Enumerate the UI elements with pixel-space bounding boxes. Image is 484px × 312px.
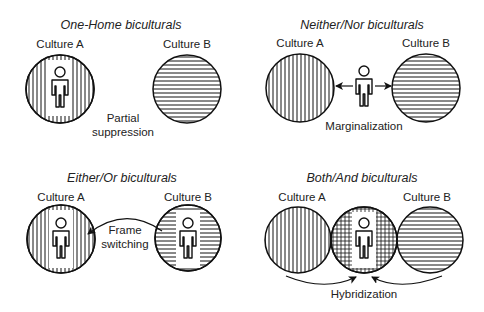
culture-b-circle bbox=[392, 54, 460, 122]
process-label-line2: switching bbox=[101, 238, 148, 250]
panel-one-home: One-Home biculturals Culture A Culture B… bbox=[26, 18, 221, 138]
process-label-line2: suppression bbox=[92, 126, 154, 138]
process-label-line1: Partial bbox=[107, 112, 140, 124]
culture-b-circle bbox=[153, 55, 221, 123]
culture-b-label: Culture B bbox=[164, 191, 212, 203]
culture-a-label: Culture A bbox=[278, 191, 326, 203]
culture-b-circle bbox=[397, 207, 463, 273]
hybrid-arrow-right bbox=[372, 276, 442, 284]
culture-a-label: Culture A bbox=[37, 191, 85, 203]
culture-a-label: Culture A bbox=[276, 37, 324, 49]
panel-title: Either/Or biculturals bbox=[67, 171, 177, 185]
process-label: Hybridization bbox=[331, 288, 397, 300]
person-icon bbox=[356, 66, 372, 106]
process-label-line1: Frame bbox=[108, 224, 141, 236]
panel-neither-nor: Neither/Nor biculturals Culture A Cultur… bbox=[266, 18, 460, 132]
panel-title: One-Home biculturals bbox=[61, 18, 182, 32]
culture-a-circle bbox=[265, 207, 331, 273]
panel-title: Both/And biculturals bbox=[306, 171, 417, 185]
culture-a-label: Culture A bbox=[36, 38, 84, 50]
culture-a-circle bbox=[266, 54, 334, 122]
culture-b-label: Culture B bbox=[163, 38, 211, 50]
culture-b-label: Culture B bbox=[402, 37, 450, 49]
panel-title: Neither/Nor biculturals bbox=[300, 18, 424, 32]
biculturalism-diagram: One-Home biculturals Culture A Culture B… bbox=[0, 0, 484, 312]
process-label: Marginalization bbox=[325, 120, 402, 132]
culture-b-label: Culture B bbox=[403, 191, 451, 203]
panel-either-or: Either/Or biculturals Culture A Culture … bbox=[27, 171, 221, 273]
panel-both-and: Both/And biculturals Culture A Culture B… bbox=[265, 171, 463, 300]
hybrid-arrow-left bbox=[286, 276, 356, 284]
